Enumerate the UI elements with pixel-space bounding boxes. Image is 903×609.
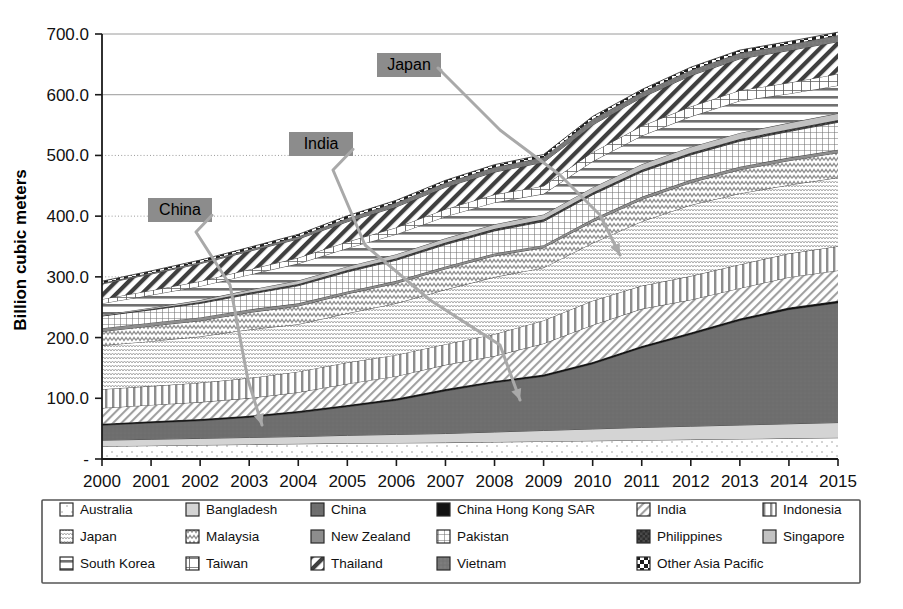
legend-label-indonesia: Indonesia [783, 502, 842, 517]
y-tick-label: 500.0 [46, 146, 89, 165]
x-tick-label: 2000 [83, 472, 121, 491]
legend-swatch-vietnam [437, 557, 450, 570]
legend-label-bangladesh: Bangladesh [206, 502, 277, 517]
legend-swatch-australia [60, 503, 73, 516]
legend-swatch-china [311, 503, 324, 516]
legend-label-india: India [657, 502, 687, 517]
y-tick-label: 200.0 [46, 329, 89, 348]
x-tick-label: 2001 [132, 472, 170, 491]
x-tick-label: 2012 [672, 472, 710, 491]
legend-swatch-indonesia [763, 503, 776, 516]
legend-label-japan: Japan [80, 529, 117, 544]
x-tick-label: 2006 [377, 472, 415, 491]
x-tick-label: 2003 [230, 472, 268, 491]
y-tick-label: 600.0 [46, 86, 89, 105]
legend-swatch-south-korea [60, 557, 73, 570]
legend-label-philippines: Philippines [657, 529, 723, 544]
callout-label-china: China [159, 201, 201, 218]
x-tick-label: 2005 [328, 472, 366, 491]
x-tick-label: 2013 [721, 472, 759, 491]
x-tick-label: 2015 [819, 472, 857, 491]
legend-swatch-bangladesh [186, 503, 199, 516]
x-tick-label: 2014 [770, 472, 808, 491]
x-tick-label: 2009 [525, 472, 563, 491]
legend-label-malaysia: Malaysia [206, 529, 260, 544]
legend-label-other-asia-pacific: Other Asia Pacific [657, 556, 764, 571]
legend-swatch-other-asia-pacific [637, 557, 650, 570]
legend-swatch-india [637, 503, 650, 516]
callout-label-japan: Japan [387, 56, 431, 73]
legend-swatch-malaysia [186, 530, 199, 543]
callout-label-india: India [304, 135, 339, 152]
y-axis-title: Billion cubic meters [11, 169, 30, 331]
y-tick-label: 300.0 [46, 268, 89, 287]
legend-label-china: China [331, 502, 367, 517]
legend-label-south-korea: South Korea [80, 556, 156, 571]
x-tick-label: 2007 [427, 472, 465, 491]
legend-swatch-taiwan [186, 557, 199, 570]
x-tick-label: 2008 [476, 472, 514, 491]
gas-consumption-stacked-area-chart: Billion cubic meters -100.0200.0300.0400… [0, 0, 903, 609]
legend-label-pakistan: Pakistan [457, 529, 509, 544]
legend-swatch-new-zealand [311, 530, 324, 543]
legend-label-china-hong-kong-sar: China Hong Kong SAR [457, 502, 595, 517]
legend-swatch-china-hong-kong-sar [437, 503, 450, 516]
legend-label-taiwan: Taiwan [206, 556, 248, 571]
legend-label-australia: Australia [80, 502, 133, 517]
x-tick-label: 2010 [574, 472, 612, 491]
legend: AustraliaBangladeshChinaChina Hong Kong … [42, 500, 860, 583]
legend-label-new-zealand: New Zealand [331, 529, 411, 544]
x-tick-label: 2011 [623, 472, 660, 491]
legend-swatch-pakistan [437, 530, 450, 543]
y-tick-label: 400.0 [46, 207, 89, 226]
x-tick-label: 2002 [181, 472, 219, 491]
legend-label-thailand: Thailand [331, 556, 383, 571]
y-tick-label: 700.0 [46, 25, 89, 44]
y-tick-label: 100.0 [46, 389, 89, 408]
legend-swatch-philippines [637, 530, 650, 543]
y-tick-label: - [83, 450, 89, 469]
legend-swatch-thailand [311, 557, 324, 570]
legend-swatch-japan [60, 530, 73, 543]
x-tick-label: 2004 [279, 472, 317, 491]
legend-label-singapore: Singapore [783, 529, 845, 544]
legend-label-vietnam: Vietnam [457, 556, 506, 571]
legend-swatch-singapore [763, 530, 776, 543]
